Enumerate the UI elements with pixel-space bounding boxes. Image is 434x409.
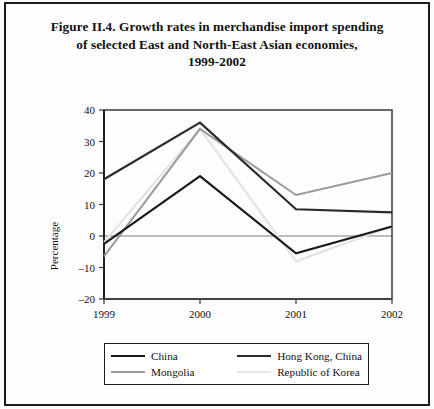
x-axis-tick-group: 1999200020012002 (93, 299, 403, 320)
y-axis-tick-group: 403020100–10–20 (78, 104, 105, 305)
chart-legend: ChinaHong Kong, ChinaMongoliaRepublic of… (104, 343, 369, 385)
y-axis-tick-label: –20 (78, 293, 96, 305)
legend-line-swatch-icon (111, 355, 145, 357)
y-axis-tick-label: 30 (84, 136, 96, 148)
plot-frame-rect (104, 110, 392, 299)
chart-canvas: 403020100–10–20 1999200020012002 (0, 92, 434, 337)
legend-item-label: Hong Kong, China (277, 350, 362, 362)
x-axis-tick-label: 2001 (285, 308, 307, 320)
x-axis-tick-label: 2000 (189, 308, 212, 320)
legend-item-label: Mongolia (151, 366, 195, 378)
series-lines (104, 123, 392, 262)
line-chart: 403020100–10–20 1999200020012002 Percent… (0, 92, 434, 337)
legend-item[interactable]: China (111, 348, 229, 364)
series-line (104, 129, 392, 261)
plot-area-frame (104, 110, 392, 299)
legend-item[interactable]: Republic of Korea (237, 364, 362, 380)
legend-item-label: Republic of Korea (277, 366, 360, 378)
x-axis-tick-label: 2002 (381, 308, 403, 320)
legend-line-swatch-icon (111, 371, 145, 373)
legend-item[interactable]: Mongolia (111, 364, 229, 380)
legend-item[interactable]: Hong Kong, China (237, 348, 362, 364)
figure-page: Figure II.4. Growth rates in merchandise… (0, 0, 434, 409)
figure-title-line-2: of selected East and North-East Asian ec… (22, 36, 412, 54)
y-axis-tick-label: 10 (84, 199, 96, 211)
legend-line-swatch-icon (237, 355, 271, 357)
figure-title-line-1: Figure II.4. Growth rates in merchandise… (22, 18, 412, 36)
legend-item-label: China (151, 350, 178, 362)
y-axis-tick-label: 0 (90, 230, 96, 242)
y-axis-tick-label: 20 (84, 167, 96, 179)
figure-title: Figure II.4. Growth rates in merchandise… (22, 18, 412, 71)
x-axis-tick-label: 1999 (93, 308, 116, 320)
figure-title-line-3: 1999-2002 (22, 53, 412, 71)
y-axis-tick-label: 40 (84, 104, 96, 116)
legend-line-swatch-icon (237, 371, 271, 373)
y-axis-tick-label: –10 (78, 262, 96, 274)
y-axis-title: Percentage (48, 186, 60, 306)
